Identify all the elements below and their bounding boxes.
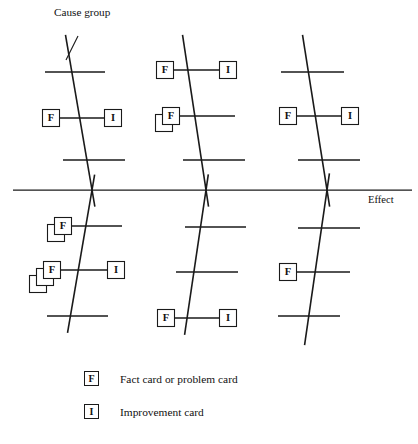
branch-lower-right-2-left-card-group: F [280, 264, 297, 281]
branch-upper-right-2-right-card-group: I [342, 108, 359, 125]
branch-lower-left-2-left-card-group: F [30, 262, 61, 293]
cause-spine-lower-right [305, 173, 330, 345]
cause-spine-upper-right [303, 35, 330, 207]
legend-improvement-icon: I [84, 404, 99, 419]
branch-upper-middle-1-left-card-letter: F [162, 64, 168, 75]
branch-upper-left-2-right-card-letter: I [111, 112, 115, 123]
legend-improvement-label: Improvement card [120, 406, 204, 418]
cause-spine-lower-middle [185, 174, 209, 334]
branch-lower-left-2-right-card-letter: I [114, 264, 118, 275]
legend-item-improvement-card: I Improvement card [84, 404, 204, 419]
legend-fact-icon: F [84, 371, 99, 386]
branch-lower-left-2-right-card-group: I [108, 262, 125, 279]
branch-lower-middle-3-left-card-letter: F [163, 312, 169, 323]
branch-lower-left-2-left-card-letter: F [49, 264, 55, 275]
branch-upper-middle-2-left-card-letter: F [168, 110, 174, 121]
branch-upper-right-2-left-card-group: F [280, 108, 297, 125]
branch-upper-left-2-right-card-group: I [105, 110, 122, 127]
legend-fact-label: Fact card or problem card [120, 373, 238, 385]
legend-item-fact-card: F Fact card or problem card [84, 371, 238, 386]
branch-upper-middle-2-left-card-group: F [156, 108, 180, 132]
cause-spine-lower-left [68, 175, 95, 333]
branch-lower-middle-3-right-card-letter: I [226, 312, 230, 323]
branch-lower-middle-3-left-card-group: F [158, 310, 175, 327]
cause-group-label: Cause group [54, 6, 100, 19]
cause-spine-upper-left [65, 35, 94, 207]
branch-upper-middle-1-right-card-letter: I [226, 64, 230, 75]
branch-upper-middle-1-right-card-group: I [220, 62, 237, 79]
branch-lower-left-1-left-card-group: F [48, 218, 72, 242]
branch-lower-left-1-left-card-letter: F [60, 220, 66, 231]
branch-upper-right-2-left-card-letter: F [285, 110, 291, 121]
branch-upper-left-2-left-card-group: F [43, 110, 60, 127]
branch-upper-right-2-right-card-letter: I [348, 110, 352, 121]
fishbone-diagram: FIFIFFIFFIFIF Cause group Effect F Fact … [0, 0, 418, 444]
branch-upper-middle-1-left-card-group: F [157, 62, 174, 79]
branch-upper-left-2-left-card-letter: F [48, 112, 54, 123]
branch-lower-middle-3-right-card-group: I [220, 310, 237, 327]
cause-spine-upper-middle [183, 35, 209, 207]
branch-lower-right-2-left-card-letter: F [285, 266, 291, 277]
effect-label: Effect [368, 194, 394, 207]
